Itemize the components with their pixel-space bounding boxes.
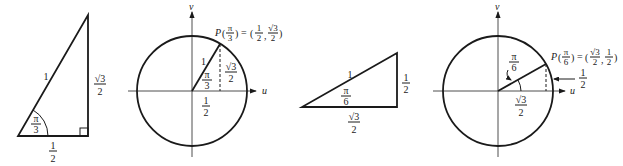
svg-text:√3: √3 (226, 61, 237, 72)
svg-text:2: 2 (352, 124, 357, 135)
svg-text:,: , (601, 54, 604, 65)
triangle-pi-6-panel: 1 π 6 1 2 √3 2 (302, 53, 410, 135)
svg-text:(: ( (222, 28, 226, 40)
radius-line (498, 64, 546, 91)
svg-text:3: 3 (34, 124, 39, 135)
svg-text:6: 6 (344, 96, 349, 107)
svg-text:2: 2 (204, 107, 209, 118)
height-label-sqrt3-2: √3 2 (225, 61, 237, 84)
height-label-1-2: 1 2 (579, 67, 587, 90)
circle-pi-6-panel: u v π 6 √3 2 1 2 P ( π 6 (433, 1, 617, 157)
svg-text:√3: √3 (349, 111, 360, 122)
svg-text:(: ( (250, 28, 254, 40)
base-label-1-2: 1 2 (49, 140, 57, 164)
svg-text:,: , (264, 30, 267, 41)
svg-text:π: π (204, 69, 209, 80)
svg-text:2: 2 (51, 153, 56, 164)
height-label-sqrt3-2: √3 2 (94, 73, 106, 97)
svg-text:6: 6 (564, 57, 569, 67)
svg-text:P: P (550, 51, 557, 62)
svg-text:(: ( (558, 52, 562, 64)
angle-label-pi-6: π 6 (341, 85, 351, 107)
angle-arc (518, 80, 521, 91)
angle-pointer-arrow (507, 70, 511, 80)
svg-text:2: 2 (404, 84, 409, 95)
svg-text:2: 2 (229, 73, 234, 84)
svg-text:1: 1 (51, 140, 56, 151)
right-angle-marker (80, 128, 88, 136)
svg-text:π: π (564, 47, 569, 57)
u-axis-label: u (262, 85, 267, 96)
hypotenuse-label: 1 (44, 71, 49, 82)
svg-text:=: = (577, 51, 583, 62)
v-axis-label: v (189, 1, 194, 12)
svg-text:2: 2 (593, 57, 598, 67)
svg-text:2: 2 (607, 57, 612, 67)
point-label-p-pi-6: P ( π 6 ) = ( √3 2 , 1 2 ) (550, 47, 617, 67)
svg-text:√3: √3 (516, 94, 527, 105)
svg-text:2: 2 (271, 33, 276, 43)
svg-text:(: ( (585, 52, 589, 64)
base-label-1-2: 1 2 (202, 95, 210, 118)
right-triangle (302, 53, 397, 107)
right-triangle (18, 15, 88, 136)
trig-special-angles-figure: π 3 1 √3 2 1 2 u v 1 π 3 (0, 0, 623, 166)
svg-text:π: π (511, 51, 516, 62)
svg-text:1: 1 (404, 72, 409, 83)
svg-text:=: = (241, 27, 247, 38)
base-label-sqrt3-2: √3 2 (515, 94, 527, 118)
svg-text:3: 3 (205, 80, 210, 91)
angle-label-pi-3: π 3 (202, 69, 212, 91)
base-label-sqrt3-2: √3 2 (348, 111, 360, 135)
circle-pi-3-panel: u v 1 π 3 √3 2 1 2 P ( π 3 ) = (128, 1, 282, 157)
svg-text:2: 2 (519, 107, 524, 118)
v-axis-label: v (495, 1, 500, 12)
radius-label: 1 (201, 56, 206, 67)
svg-text:2: 2 (581, 79, 586, 90)
svg-text:): ) (571, 52, 574, 64)
height-label-1-2: 1 2 (402, 72, 410, 95)
svg-text:√3: √3 (590, 47, 600, 57)
svg-text:√3: √3 (95, 73, 106, 84)
hypotenuse-label: 1 (348, 69, 353, 80)
svg-text:2: 2 (257, 33, 262, 43)
angle-label-pi-6: π 6 (509, 51, 519, 73)
svg-text:1: 1 (607, 47, 612, 57)
svg-text:): ) (235, 28, 238, 40)
svg-text:π: π (343, 85, 348, 96)
svg-text:1: 1 (204, 95, 209, 106)
svg-text:3: 3 (228, 33, 233, 43)
triangle-pi-3-panel: π 3 1 √3 2 1 2 (18, 15, 106, 164)
svg-text:1: 1 (581, 67, 586, 78)
angle-label-pi-3: π 3 (31, 113, 41, 135)
svg-text:π: π (228, 23, 233, 33)
point-label-p-pi-3: P ( π 3 ) = ( 1 2 , √3 2 ) (214, 23, 282, 43)
svg-text:P: P (214, 27, 221, 38)
svg-text:√3: √3 (268, 23, 278, 33)
svg-text:): ) (279, 28, 282, 40)
svg-text:1: 1 (257, 23, 262, 33)
svg-text:6: 6 (512, 62, 517, 73)
svg-text:): ) (614, 52, 617, 64)
svg-text:π: π (33, 113, 38, 124)
svg-text:2: 2 (98, 86, 103, 97)
u-axis-label: u (570, 85, 575, 96)
